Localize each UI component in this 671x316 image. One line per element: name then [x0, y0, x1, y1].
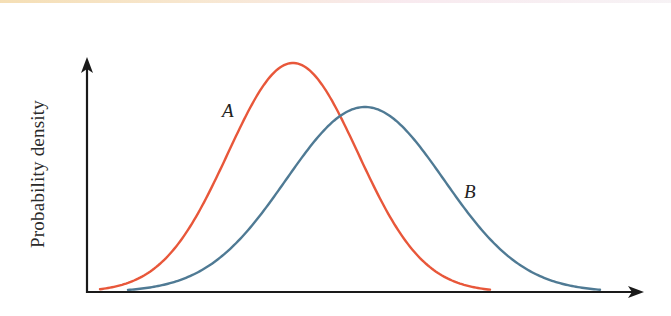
curve-a — [100, 63, 490, 290]
chart-canvas — [0, 0, 671, 316]
curve-b — [128, 107, 600, 290]
curve-b-label: B — [464, 181, 476, 203]
y-axis-label: Probability density — [27, 100, 49, 248]
curve-a-label: A — [222, 100, 234, 122]
